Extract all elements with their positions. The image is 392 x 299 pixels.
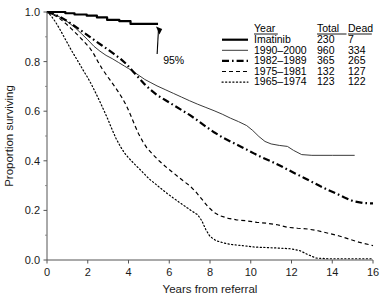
annotation-label-95-percent: 95% — [163, 54, 184, 66]
x-tick-label: 12 — [285, 266, 297, 278]
annotation-arrow-line — [157, 29, 158, 54]
legend-label-year: 1965–1974 — [254, 75, 307, 87]
chart-annotations: 95% — [156, 26, 184, 66]
series-line-1990-2000 — [47, 12, 355, 155]
x-tick-label: 0 — [44, 266, 50, 278]
annotation-arrow-head — [156, 26, 162, 34]
x-tick-label: 4 — [125, 266, 131, 278]
legend-value-total: 123 — [317, 75, 335, 87]
survival-chart-figure: 02468101214160.00.20.40.60.81.0Years fro… — [0, 0, 392, 299]
y-tick-label: 0.0 — [25, 254, 40, 266]
x-tick-label: 6 — [166, 266, 172, 278]
x-tick-label: 2 — [85, 266, 91, 278]
y-tick-label: 0.4 — [25, 155, 40, 167]
x-tick-label: 14 — [326, 266, 338, 278]
y-tick-label: 0.2 — [25, 204, 40, 216]
chart-canvas: 02468101214160.00.20.40.60.81.0Years fro… — [0, 0, 392, 299]
y-tick-label: 0.6 — [25, 105, 40, 117]
legend-item-1965-1974[interactable]: 1965–1974123122 — [222, 75, 366, 87]
y-tick-label: 1.0 — [25, 6, 40, 18]
x-tick-label: 8 — [207, 266, 213, 278]
chart-legend: YearTotalDeadImatinib23071990–2000960334… — [222, 22, 373, 87]
legend-value-dead: 122 — [348, 75, 366, 87]
y-tick-label: 0.8 — [25, 56, 40, 68]
x-tick-label: 16 — [367, 266, 379, 278]
y-axis-title: Proportion surviving — [3, 85, 15, 187]
x-axis-title: Years from referral — [163, 283, 258, 295]
x-tick-label: 10 — [245, 266, 257, 278]
